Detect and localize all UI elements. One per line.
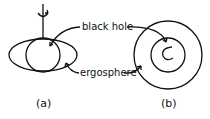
diagram-canvas — [0, 0, 210, 119]
ergosphere-ellipse — [9, 39, 77, 71]
black-hole-circle-a — [26, 38, 60, 72]
ergosphere-circle-b — [134, 21, 202, 89]
rotation-arc-b — [163, 47, 173, 60]
panel-a-label: (a) — [36, 98, 51, 109]
ergosphere-label: ergosphere — [80, 68, 137, 78]
panel-b-label: (b) — [161, 98, 177, 109]
black-hole-label: black hole — [82, 22, 133, 32]
black-hole-circle-b — [151, 38, 185, 72]
